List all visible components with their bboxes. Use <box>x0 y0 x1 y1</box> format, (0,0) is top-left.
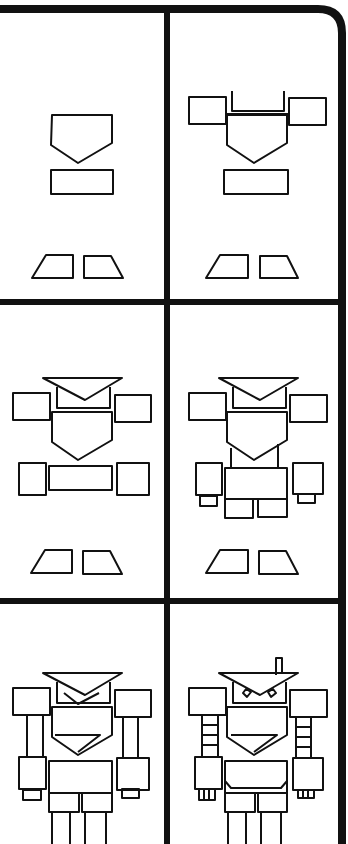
panel-step-2 <box>189 91 326 278</box>
drawing-tutorial-sheet <box>0 0 348 844</box>
panel-step-6 <box>189 658 327 844</box>
panel-step-1 <box>32 115 123 278</box>
arm-segments <box>202 715 311 758</box>
panel-step-5 <box>13 673 151 844</box>
panel-step-3 <box>13 378 151 574</box>
panel-step-4 <box>189 378 327 574</box>
